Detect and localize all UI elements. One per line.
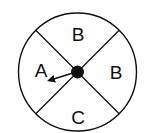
spinner-hub [71,66,84,79]
section-label-bottom: C [71,107,85,128]
section-label-left: A [35,60,48,81]
spinner-diagram: B B C A [0,0,145,133]
section-label-top: B [72,24,85,45]
section-label-right: B [110,62,123,83]
